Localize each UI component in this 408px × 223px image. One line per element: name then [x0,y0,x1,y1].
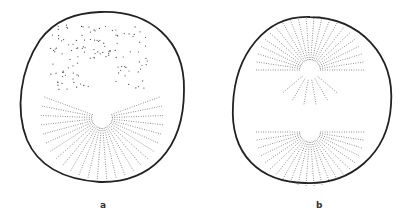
panel-label-b: b [316,200,322,210]
aster-rays-a [40,97,164,180]
cell-outline-b [233,17,392,183]
panel-a [21,12,184,182]
chromosome-dots-a [50,24,148,90]
panel-label-a: a [100,200,106,210]
panel-b [233,15,392,187]
aster-rays-b [255,15,365,187]
figure-canvas [0,0,408,223]
